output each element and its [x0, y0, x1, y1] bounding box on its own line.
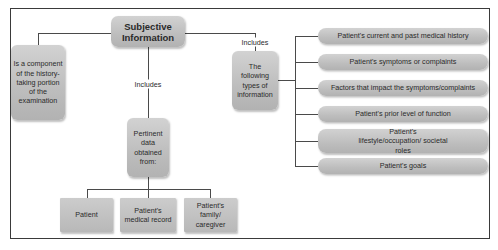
root-node-subjective-information: Subjective Information	[111, 16, 185, 47]
edge-label-includes-right: Includes	[241, 38, 270, 47]
type-label: Patient's lifestyle/occupation/ societal…	[358, 127, 448, 155]
connector-left-down	[38, 33, 39, 45]
type-label: Factors that impact the symptoms/complai…	[331, 83, 475, 92]
connector-type-5	[295, 141, 318, 142]
connector-source-3	[210, 189, 211, 198]
type-node-goals: Patient's goals	[318, 158, 488, 174]
middle-node-pertinent-data: Pertinent data obtained from:	[127, 118, 169, 177]
type-node-symptoms: Patient's symptoms or complaints	[318, 54, 488, 70]
type-node-prior-function: Patient's prior level of function	[318, 106, 488, 122]
source-node-family-caregiver: Patient's family/ caregiver	[184, 198, 237, 232]
connector-types-bus	[295, 36, 296, 167]
connector-type-6	[295, 166, 318, 167]
connector-source-2	[148, 189, 149, 198]
source-label: Patient's family/ caregiver	[186, 201, 235, 229]
source-node-medical-record: Patient's medical record	[120, 198, 176, 232]
connector-root-left	[38, 33, 111, 34]
connector-type-1	[295, 36, 318, 37]
type-label: Patient's current and past medical histo…	[337, 31, 468, 40]
connector-root-right	[185, 33, 256, 34]
source-node-patient: Patient	[60, 198, 113, 232]
connector-source-1	[87, 189, 88, 198]
connector-type-3	[295, 88, 318, 89]
type-node-factors: Factors that impact the symptoms/complai…	[318, 80, 488, 96]
left-node-history-component: Is a component of the history-taking por…	[11, 45, 65, 120]
source-label: Patient's medical record	[122, 206, 174, 224]
edge-label-includes-middle: Includes	[134, 80, 163, 89]
left-node-label: Is a component of the history-taking por…	[13, 59, 63, 105]
type-label: Patient's goals	[380, 161, 427, 170]
connector-type-4	[295, 114, 318, 115]
root-node-label: Subjective Information	[122, 21, 174, 43]
connector-right-node-bus	[278, 80, 295, 81]
type-node-lifestyle: Patient's lifestyle/occupation/ societal…	[318, 129, 488, 153]
type-label: Patient's symptoms or complaints	[350, 57, 457, 66]
right-node-types-of-information: The following types of information	[232, 51, 278, 110]
right-node-label: The following types of information	[234, 62, 276, 99]
middle-node-label: Pertinent data obtained from:	[129, 129, 167, 166]
connector-type-2	[295, 62, 318, 63]
type-node-medical-history: Patient's current and past medical histo…	[318, 28, 488, 44]
connector-sources-bar	[87, 189, 211, 190]
source-label: Patient	[75, 210, 97, 219]
connector-middle-sources	[148, 177, 149, 189]
type-label: Patient's prior level of function	[355, 109, 451, 118]
